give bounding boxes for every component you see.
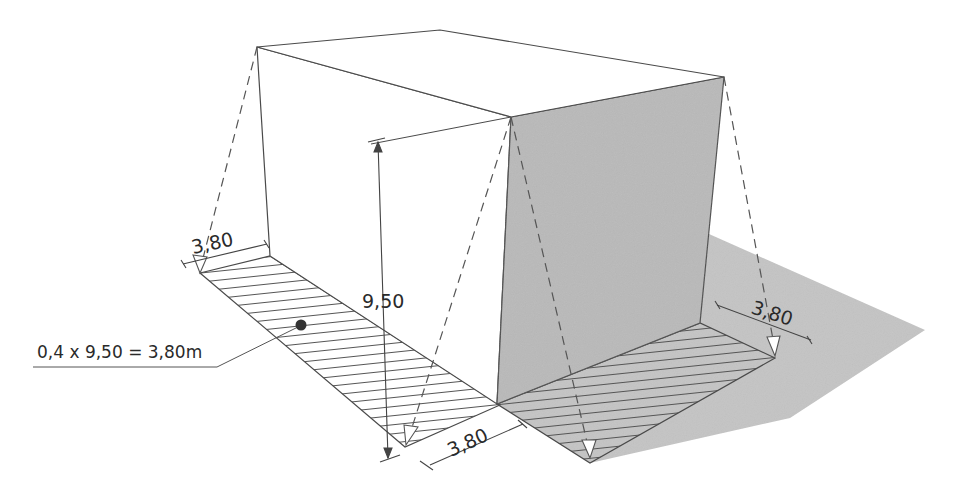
diagram-canvas: 9,50 3,80 3,80 3,80 0,4 x 9,50 = 3,80m <box>0 0 958 497</box>
formula-label: 0,4 x 9,50 = 3,80m <box>37 342 202 362</box>
height-label: 9,50 <box>362 290 404 312</box>
width-label-front: 3,80 <box>444 423 492 460</box>
